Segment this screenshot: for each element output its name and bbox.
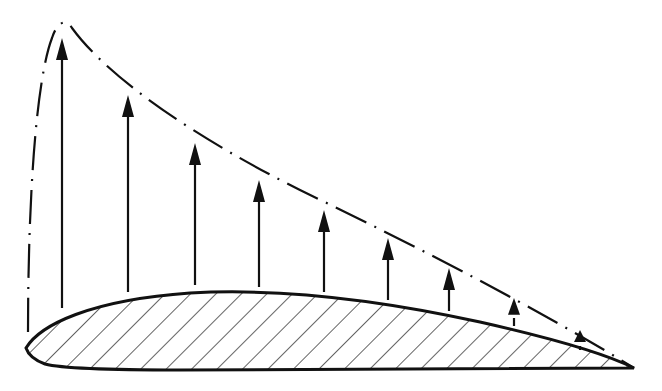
lift-arrow bbox=[443, 268, 455, 311]
arrowhead-icon bbox=[56, 38, 68, 60]
arrowhead-icon bbox=[318, 210, 330, 232]
lift-arrow bbox=[253, 180, 265, 287]
arrowhead-icon bbox=[122, 95, 134, 117]
arrowhead-icon bbox=[443, 268, 455, 290]
lift-arrow bbox=[56, 38, 68, 308]
airfoil-pressure-diagram bbox=[0, 0, 662, 391]
arrowhead-icon bbox=[382, 238, 394, 260]
arrowhead-icon bbox=[189, 143, 201, 165]
lift-arrow bbox=[122, 95, 134, 292]
arrowhead-icon bbox=[253, 180, 265, 202]
arrowhead-icon bbox=[574, 330, 586, 342]
diagram-canvas bbox=[0, 0, 662, 391]
airfoil-section bbox=[26, 292, 634, 370]
lift-arrow bbox=[189, 143, 201, 285]
arrowhead-icon bbox=[508, 298, 520, 315]
lift-arrow bbox=[318, 210, 330, 292]
lift-arrow bbox=[382, 238, 394, 300]
